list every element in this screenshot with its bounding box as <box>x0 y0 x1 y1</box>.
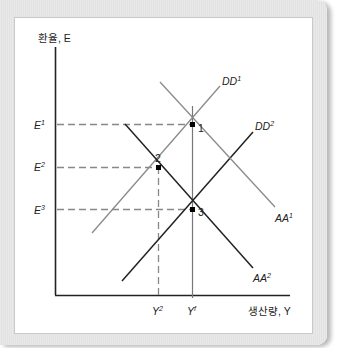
dd-aa-diagram: 1 2 3 환율, E E1 E2 E3 Y2 Yf 생산량, Y DD1 DD… <box>0 0 339 348</box>
aa2-label: AA2 <box>252 272 271 284</box>
point-3-label: 3 <box>198 206 204 218</box>
tick-y2: Y2 <box>152 305 163 317</box>
aa1-label: AA1 <box>274 212 293 224</box>
point-2-label: 2 <box>155 152 161 164</box>
x-axis-title: 생산량, Y <box>248 305 291 317</box>
tick-e2: E2 <box>34 161 45 173</box>
tick-yf: Yf <box>187 305 197 317</box>
dd2-label: DD2 <box>255 120 274 132</box>
point-1-label: 1 <box>198 122 204 134</box>
point-1-marker <box>190 122 195 127</box>
point-3-marker <box>190 207 195 212</box>
point-2-marker <box>156 165 161 170</box>
dd1-label: DD1 <box>222 75 241 87</box>
tick-e1: E1 <box>34 119 45 131</box>
aa1-curve <box>160 82 275 207</box>
y-axis-title: 환율, E <box>38 32 71 44</box>
aa2-curve <box>125 124 253 268</box>
dd2-curve <box>122 132 253 281</box>
tick-e3: E3 <box>34 204 45 216</box>
